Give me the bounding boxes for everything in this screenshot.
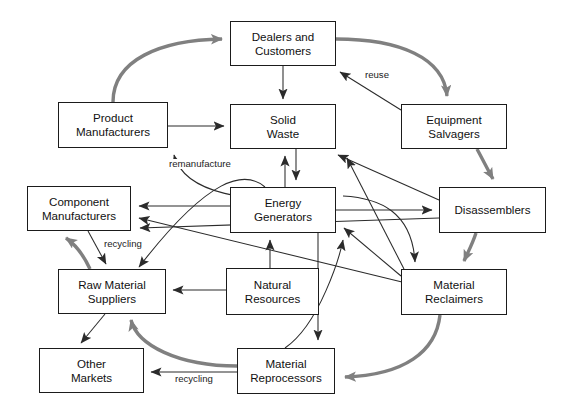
node-natural-resources[interactable]: Natural Resources bbox=[226, 268, 319, 315]
node-disassemblers[interactable]: Disassemblers bbox=[439, 187, 546, 233]
edge-product-mfg-to-dealers bbox=[113, 39, 222, 102]
edge-dealers-to-equipment-salvagers bbox=[336, 39, 447, 96]
edge-material-reclaimers-to-material-reprocessors bbox=[345, 315, 440, 377]
edge-disassemblers-to-solid-waste bbox=[338, 155, 439, 200]
edge-raw-material-suppliers-to-component-mfg bbox=[66, 238, 90, 269]
edge-label-recycling-lower: recycling bbox=[174, 374, 214, 384]
node-solid-waste[interactable]: Solid Waste bbox=[230, 104, 336, 149]
node-product-manufacturers[interactable]: Product Manufacturers bbox=[58, 102, 168, 148]
edge-label-reuse: reuse bbox=[364, 70, 390, 80]
node-other-markets[interactable]: Other Markets bbox=[39, 348, 144, 393]
edge-label-recycling-upper: recycling bbox=[103, 239, 143, 249]
edge-disassemblers-to-material-reclaimers bbox=[464, 233, 476, 261]
material-flow-diagram: Dealers and Customers Product Manufactur… bbox=[0, 0, 565, 418]
edge-material-reprocessors-to-raw-material-suppliers bbox=[131, 320, 237, 366]
node-dealers-and-customers[interactable]: Dealers and Customers bbox=[230, 21, 336, 66]
edge-energy-gen-to-material-reclaimers bbox=[343, 196, 415, 262]
node-material-reprocessors[interactable]: Material Reprocessors bbox=[237, 348, 335, 394]
edge-material-reclaimers-to-energy-gen bbox=[344, 228, 401, 276]
node-energy-generators[interactable]: Energy Generators bbox=[230, 187, 336, 233]
edge-label-remanufacture: remanufacture bbox=[168, 159, 232, 169]
node-raw-material-suppliers[interactable]: Raw Material Suppliers bbox=[58, 269, 166, 314]
node-component-manufacturers[interactable]: Component Manufacturers bbox=[27, 186, 131, 231]
node-material-reclaimers[interactable]: Material Reclaimers bbox=[401, 269, 507, 315]
node-equipment-salvagers[interactable]: Equipment Salvagers bbox=[401, 104, 507, 149]
edge-equipment-salvagers-to-disassemblers bbox=[477, 149, 493, 179]
edge-raw-material-suppliers-to-other-markets bbox=[81, 314, 105, 343]
